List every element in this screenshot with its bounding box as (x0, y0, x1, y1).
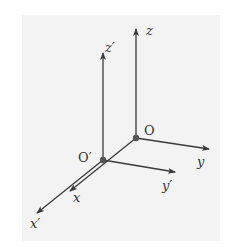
z-prime-label: z′ (104, 40, 115, 55)
y-axis (136, 138, 209, 149)
origin-o-prime-label: O′ (78, 150, 92, 165)
coordinate-frames-diagram: z y x z′ y′ x′ O O′ (0, 0, 230, 247)
y-prime-axis (103, 160, 175, 172)
origin-o-prime-dot (100, 157, 106, 163)
y-label: y (196, 154, 205, 169)
z-label: z (145, 23, 153, 38)
origin-o-label: O (144, 123, 155, 138)
x-label: x (73, 190, 81, 205)
origin-o-dot (133, 135, 139, 141)
x-prime-axis (37, 160, 103, 213)
y-prime-label: y′ (161, 178, 172, 193)
x-prime-label: x′ (30, 216, 40, 231)
